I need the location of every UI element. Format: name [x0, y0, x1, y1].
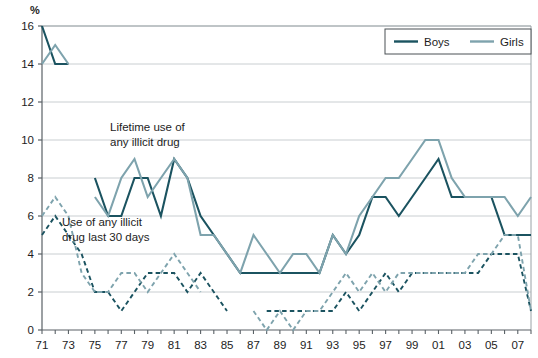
legend[interactable]: BoysGirls [385, 29, 531, 54]
y-tick-label: 12 [21, 96, 34, 108]
y-tick-label: 8 [28, 172, 34, 184]
x-tick-label: 07 [511, 339, 524, 351]
x-tick-label: 85 [221, 339, 234, 351]
y-tick-label: 0 [28, 324, 34, 336]
line-chart: 0246810121416 71737577798183858789919395… [0, 0, 538, 358]
legend-label-girls[interactable]: Girls [500, 36, 524, 48]
x-tick-label: 83 [194, 339, 207, 351]
y-tick-label: 14 [21, 58, 34, 70]
y-tick-label: 6 [28, 210, 34, 222]
y-tick-label: 16 [21, 20, 34, 32]
x-tick-label: 87 [247, 339, 260, 351]
annotation-lifetime: Lifetime use of [110, 121, 186, 133]
chart-container: 0246810121416 71737577798183858789919395… [0, 0, 538, 358]
x-tick-label: 79 [141, 339, 154, 351]
x-tick-label: 05 [485, 339, 498, 351]
x-tick-label: 95 [353, 339, 366, 351]
legend-label-boys[interactable]: Boys [424, 36, 450, 48]
x-tick-label: 75 [88, 339, 101, 351]
x-tick-label: 93 [326, 339, 339, 351]
x-tick-label: 73 [62, 339, 75, 351]
x-tick-label: 89 [273, 339, 286, 351]
x-tick-label: 71 [36, 339, 49, 351]
x-tick-label: 91 [300, 339, 313, 351]
y-tick-label: 2 [28, 286, 34, 298]
annotation-last30: drug last 30 days [62, 231, 150, 243]
x-tick-label: 03 [459, 339, 472, 351]
x-tick-label: 01 [432, 339, 445, 351]
x-tick-label: 97 [379, 339, 392, 351]
annotation-last30: Use of any illicit [62, 216, 143, 228]
y-tick-label: 4 [28, 248, 35, 260]
x-tick-label: 81 [168, 339, 181, 351]
x-tick-label: 77 [115, 339, 128, 351]
y-tick-label: 10 [21, 134, 34, 146]
x-tick-label: 99 [406, 339, 419, 351]
y-axis-unit-label: % [30, 4, 40, 16]
annotation-lifetime: any illicit drug [110, 136, 180, 148]
